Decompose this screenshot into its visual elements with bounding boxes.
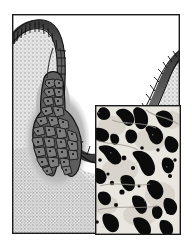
histology-figure bbox=[0, 0, 192, 250]
photomicrograph-inset bbox=[92, 105, 182, 236]
figure-canvas bbox=[0, 0, 192, 250]
